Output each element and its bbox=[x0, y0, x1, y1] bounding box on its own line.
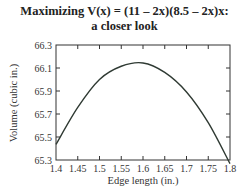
y-tick-label: 65.3 bbox=[35, 155, 53, 166]
x-tick-label: 1.45 bbox=[69, 163, 87, 174]
y-tick-label: 66.3 bbox=[35, 40, 53, 51]
y-tick-label: 65.9 bbox=[35, 86, 53, 97]
x-tick-label: 1.65 bbox=[156, 163, 174, 174]
x-tick-label: 1.55 bbox=[113, 163, 131, 174]
y-tick-labels: 66.366.165.965.765.565.3 bbox=[35, 40, 53, 166]
line-chart: 1.41.451.51.551.61.651.71.751.8 66.366.1… bbox=[0, 0, 249, 190]
y-tick-label: 66.1 bbox=[35, 63, 53, 74]
x-tick-label: 1.5 bbox=[93, 163, 106, 174]
x-tick-label: 1.75 bbox=[200, 163, 218, 174]
y-axis-label: Volume (cubic in.) bbox=[8, 63, 20, 142]
y-tick-label: 65.5 bbox=[35, 132, 53, 143]
x-tick-label: 1.7 bbox=[180, 163, 193, 174]
x-tick-labels: 1.41.451.51.551.61.651.71.751.8 bbox=[50, 163, 237, 174]
volume-curve bbox=[56, 63, 230, 164]
x-tick-label: 1.8 bbox=[224, 163, 237, 174]
y-tick-label: 65.7 bbox=[35, 109, 53, 120]
x-tick-label: 1.6 bbox=[137, 163, 150, 174]
x-axis-label: Edge length (in.) bbox=[108, 175, 179, 187]
